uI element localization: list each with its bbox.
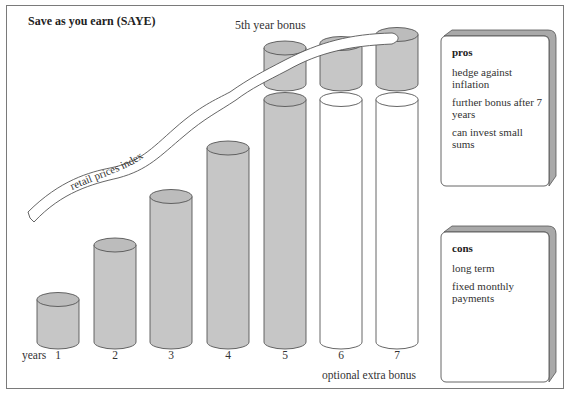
pros-item: hedge against inflation [452,66,548,90]
pros-list: pros hedge against inflation further bon… [452,46,548,156]
savings-cylinder-year-4 [207,141,249,349]
savings-cylinder-year-3 [150,190,192,350]
cons-heading: cons [452,242,548,254]
savings-cylinder-year-2-top [94,238,136,252]
savings-cylinder-year-6-body [320,100,362,350]
savings-cylinder-year-5-body [264,100,306,350]
savings-cylinder-year-5-top [264,93,306,107]
years-axis-label: years [22,349,46,361]
year-tick-label: 3 [161,349,181,361]
savings-cylinder-year-6 [320,93,362,350]
savings-cylinder-year-1 [37,293,79,349]
cons-item: fixed monthly payments [452,280,548,304]
year-tick-label: 7 [387,349,407,361]
cons-list: cons long term fixed monthly payments [452,242,548,310]
savings-cylinder-year-7 [376,93,418,350]
savings-cylinder-year-7-top [376,93,418,107]
pros-item: further bonus after 7 years [452,96,548,120]
savings-cylinder-year-3-top [150,190,192,204]
pros-heading: pros [452,46,548,58]
savings-cylinder-year-5 [264,93,306,350]
savings-cylinder-year-4-top [207,141,249,155]
year-tick-label: 1 [48,349,68,361]
savings-cylinder-year-2 [94,238,136,349]
savings-cylinder-year-3-body [150,197,192,350]
cons-item: long term [452,262,548,274]
year-tick-label: 5 [275,349,295,361]
savings-cylinder-year-6-top [320,93,362,107]
year-tick-label: 6 [331,349,351,361]
savings-cylinder-year-4-body [207,148,249,349]
year-tick-label: 4 [218,349,238,361]
savings-cylinder-year-1-top [37,293,79,307]
savings-cylinder-year-2-body [94,245,136,349]
diagram-title: Save as you earn (SAYE) [28,14,156,29]
savings-cylinder-year-7-body [376,100,418,350]
optional-extra-bonus-label: optional extra bonus [322,369,416,381]
year-tick-label: 2 [105,349,125,361]
pros-item: can invest small sums [452,126,548,150]
fifth-year-bonus-label: 5th year bonus [235,18,306,33]
